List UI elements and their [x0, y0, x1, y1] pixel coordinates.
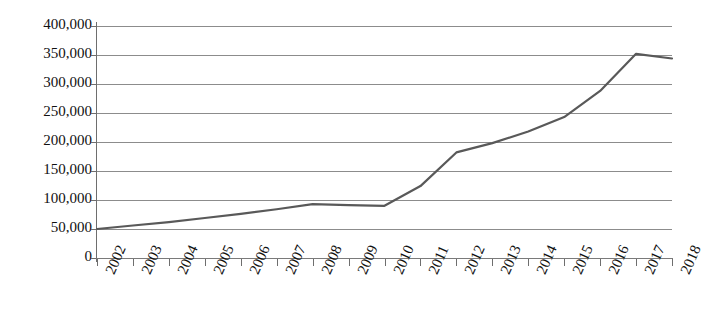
y-tick-label: 300,000 — [4, 74, 92, 91]
x-tick-mark — [349, 259, 350, 266]
y-tick-label: 150,000 — [4, 161, 92, 178]
gridline-400000 — [97, 26, 672, 27]
x-tick-mark — [97, 259, 98, 266]
gridline-350000 — [97, 55, 672, 56]
gridline-100000 — [97, 200, 672, 201]
x-tick-mark — [636, 259, 637, 266]
x-tick-mark — [564, 259, 565, 266]
gridline-150000 — [97, 171, 672, 172]
y-tick-label: 350,000 — [4, 45, 92, 62]
x-tick-mark — [133, 259, 134, 266]
gridline-50000 — [97, 229, 672, 230]
y-tick-label: 0 — [4, 248, 92, 265]
x-tick-mark — [456, 259, 457, 266]
gridline-250000 — [97, 113, 672, 114]
plot-area — [97, 26, 672, 258]
x-tick-mark — [672, 259, 673, 266]
gridline-300000 — [97, 84, 672, 85]
y-tick-label: 50,000 — [4, 219, 92, 236]
y-tick-label: 100,000 — [4, 190, 92, 207]
x-tick-label: 2018 — [677, 243, 705, 277]
x-tick-mark — [420, 259, 421, 266]
x-tick-mark — [313, 259, 314, 266]
x-tick-mark — [169, 259, 170, 266]
x-tick-mark — [492, 259, 493, 266]
gridline-200000 — [97, 142, 672, 143]
x-tick-mark — [385, 259, 386, 266]
y-tick-label: 250,000 — [4, 103, 92, 120]
x-tick-mark — [600, 259, 601, 266]
x-tick-mark — [241, 259, 242, 266]
y-tick-label: 200,000 — [4, 132, 92, 149]
y-axis-line — [96, 22, 97, 262]
x-tick-mark — [277, 259, 278, 266]
x-tick-mark — [528, 259, 529, 266]
y-axis-labels: 050,000100,000150,000200,000250,000300,0… — [0, 0, 92, 332]
x-tick-mark — [205, 259, 206, 266]
y-tick-label: 400,000 — [4, 16, 92, 33]
